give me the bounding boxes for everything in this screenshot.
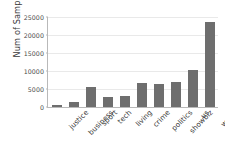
y-tick-label: 25000 [24, 14, 44, 21]
x-tick-label: tech [115, 108, 133, 126]
bar [205, 22, 215, 107]
bar [120, 96, 130, 107]
x-tick-label: living [133, 108, 153, 128]
bar-slot [167, 17, 184, 107]
bar [69, 102, 79, 107]
y-tick-label: 0 [40, 104, 44, 111]
y-tick-label: 15000 [24, 50, 44, 57]
plot-area: 0500010000150002000025000 [47, 17, 218, 108]
bar [86, 87, 96, 107]
bar [188, 70, 198, 107]
x-tick-label: world [218, 108, 225, 129]
y-tick-label: 20000 [24, 32, 44, 39]
y-tick-label: 10000 [24, 68, 44, 75]
bar-series [48, 17, 218, 107]
bar [52, 105, 62, 107]
y-axis-title: Num of Samples [10, 0, 24, 70]
bar-slot [184, 17, 201, 107]
bar-slot [48, 17, 65, 107]
bar-slot [116, 17, 133, 107]
bar-slot [65, 17, 82, 107]
y-tick-label: 5000 [28, 86, 44, 93]
bar-chart: Num of Samples 0500010000150002000025000… [0, 0, 225, 149]
bar [137, 83, 147, 107]
bar-slot [150, 17, 167, 107]
x-tick-label: justice [66, 108, 89, 131]
x-axis-ticks: justicebusinesssporttechlivingcrimepolit… [47, 108, 217, 149]
bar-slot [201, 17, 218, 107]
bar [154, 84, 164, 107]
bar-slot [133, 17, 150, 107]
bar [171, 82, 181, 107]
bar-slot [99, 17, 116, 107]
bar [103, 97, 113, 107]
bar-slot [82, 17, 99, 107]
